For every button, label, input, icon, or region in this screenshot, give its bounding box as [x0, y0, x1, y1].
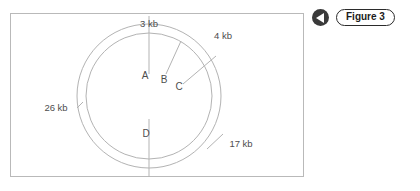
- leader-17kb: [207, 134, 223, 149]
- label-site-b: B: [161, 74, 168, 85]
- label-3kb: 3 kb: [140, 18, 158, 29]
- circular-restriction-map-diagram: 3 kb 4 kb 26 kb 17 kb A B C D: [11, 14, 305, 178]
- label-26kb: 26 kb: [44, 102, 67, 113]
- figure-frame: 3 kb 4 kb 26 kb 17 kb A B C D: [10, 13, 304, 177]
- tick-site-b: [166, 41, 181, 74]
- label-site-d: D: [142, 128, 149, 139]
- label-17kb: 17 kb: [229, 138, 252, 149]
- label-4kb: 4 kb: [214, 30, 232, 41]
- label-site-a: A: [142, 70, 149, 81]
- figure-label-badge[interactable]: Figure 3: [336, 9, 395, 26]
- previous-figure-button[interactable]: [312, 9, 329, 26]
- label-site-c: C: [175, 81, 182, 92]
- triangle-left-icon: [316, 13, 325, 23]
- figure-navigation: Figure 3: [312, 9, 395, 26]
- tick-site-c: [183, 56, 216, 84]
